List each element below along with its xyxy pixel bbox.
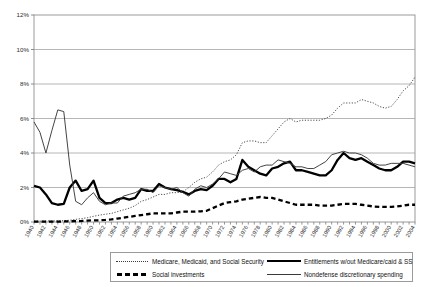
- chart-container: 0%2%4%6%8%10%12%194019421944194619481950…: [0, 0, 434, 287]
- x-axis-tick-label: 1968: [190, 225, 201, 239]
- x-axis-tick-label: 1996: [357, 225, 368, 239]
- y-axis-tick-label: 4%: [20, 149, 29, 156]
- x-axis-tick-label: 1986: [297, 225, 308, 239]
- x-axis-tick-label: 1956: [119, 225, 130, 239]
- x-axis-tick-label: 1946: [59, 225, 70, 239]
- legend-label: Nondefense discretionary spending: [304, 271, 403, 279]
- x-axis-tick-label: 1970: [202, 225, 213, 239]
- y-axis-tick-label: 8%: [20, 80, 29, 87]
- y-axis-tick-label: 12%: [17, 11, 30, 18]
- x-axis-tick-label: 1942: [35, 225, 46, 239]
- y-axis-tick-label: 0%: [20, 218, 29, 225]
- x-axis-tick-label: 1994: [345, 225, 356, 239]
- x-axis-tick-label: 1960: [143, 225, 154, 239]
- thick-solid-line-swatch-icon: [267, 258, 301, 266]
- legend-label: Social investments: [152, 271, 205, 279]
- legend-item-nondefense-discretionary-spending: Nondefense discretionary spending: [267, 268, 403, 281]
- y-axis-tick-label: 2%: [20, 184, 29, 191]
- legend-item-social-investments: Social investments: [115, 268, 205, 281]
- x-axis-tick-label: 1990: [321, 225, 332, 239]
- x-axis-tick-label: 1944: [47, 225, 58, 239]
- x-axis-tick-label: 1958: [131, 225, 142, 239]
- x-axis-tick-label: 1988: [309, 225, 320, 239]
- x-axis-tick-label: 1966: [178, 225, 189, 239]
- legend-label: Entitlements w/out Medicare/caid & SS: [304, 258, 413, 266]
- x-axis-tick-label: 2002: [393, 225, 404, 239]
- legend-item-medicare-medicaid-social-security: Medicare, Medicaid, and Social Security: [115, 255, 264, 268]
- x-axis-tick-label: 1954: [107, 225, 118, 239]
- x-axis-tick-label: 1980: [262, 225, 273, 239]
- x-axis-tick-label: 1984: [285, 225, 296, 239]
- thick-dashed-line-swatch-icon: [115, 271, 149, 279]
- legend-label: Medicare, Medicaid, and Social Security: [152, 258, 264, 266]
- legend-item-entitlements-without-medicare-ss: Entitlements w/out Medicare/caid & SS: [267, 255, 413, 268]
- chart-legend: Medicare, Medicaid, and Social Security …: [110, 252, 413, 282]
- x-axis-tick-label: 1950: [83, 225, 94, 239]
- y-axis-tick-label: 10%: [17, 46, 30, 53]
- x-axis-tick-label: 1948: [71, 225, 82, 239]
- x-axis-tick-label: 1982: [273, 225, 284, 239]
- y-axis-tick-label: 6%: [20, 115, 29, 122]
- x-axis-tick-label: 1940: [23, 225, 34, 239]
- x-axis-tick-label: 1998: [369, 225, 380, 239]
- x-axis-tick-label: 1978: [250, 225, 261, 239]
- dotted-line-swatch-icon: [115, 258, 149, 266]
- line-chart-plot: 0%2%4%6%8%10%12%194019421944194619481950…: [0, 0, 434, 250]
- x-axis-tick-label: 2004: [404, 225, 415, 239]
- x-axis-tick-label: 1976: [238, 225, 249, 239]
- thin-solid-line-swatch-icon: [267, 271, 301, 279]
- x-axis-tick-label: 2000: [381, 225, 392, 239]
- x-axis-tick-label: 1964: [166, 225, 177, 239]
- x-axis-tick-label: 1952: [95, 225, 106, 239]
- x-axis-tick-label: 1972: [214, 225, 225, 239]
- x-axis-tick-label: 1992: [333, 225, 344, 239]
- x-axis-tick-label: 1962: [154, 225, 165, 239]
- x-axis-tick-label: 1974: [226, 225, 237, 239]
